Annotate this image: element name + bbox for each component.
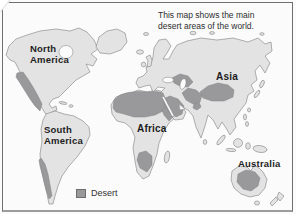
map-caption: This map shows the main desert areas of … (158, 10, 278, 31)
label-south-america-line2: America (44, 135, 83, 146)
island-sumatra (216, 134, 227, 146)
label-australia: Australia (238, 158, 280, 169)
island-svalbard (144, 33, 149, 36)
label-south-america: South America (44, 124, 83, 146)
label-south-america-line1: South (44, 124, 83, 135)
island-philippines-south (246, 122, 249, 127)
island-hispaniola (69, 105, 73, 108)
island-iceland (137, 50, 144, 54)
island-java (226, 148, 236, 152)
island-arctic-2 (210, 32, 215, 35)
legend-desert-label: Desert (91, 188, 118, 198)
world-desert-map-figure: This map shows the main desert areas of … (0, 0, 296, 214)
island-japan-north (259, 80, 266, 89)
island-madagascar (163, 151, 170, 164)
black-sea (163, 77, 174, 83)
island-new-guinea (253, 145, 268, 154)
legend: Desert (76, 188, 118, 198)
label-north-america-line1: North (30, 43, 69, 54)
island-sri-lanka (203, 140, 207, 145)
map-caption-line1: This map shows the main (158, 10, 278, 21)
label-north-america-line2: America (30, 54, 69, 65)
island-taiwan (248, 108, 251, 112)
continent-north-america (6, 28, 98, 115)
island-philippines-north (244, 114, 247, 120)
island-cuba (59, 101, 67, 105)
label-africa: Africa (137, 123, 167, 134)
island-wrangel (260, 33, 264, 36)
page-corner-artifact-inner (0, 0, 9, 11)
desert-swatch-icon (76, 189, 86, 198)
island-ireland (141, 62, 145, 67)
label-north-america: North America (30, 43, 69, 65)
desert-sahara (113, 92, 167, 118)
island-arctic-1 (190, 31, 196, 34)
island-tasmania (255, 201, 260, 205)
island-greenland (96, 29, 127, 54)
island-borneo (234, 139, 243, 148)
island-great-britain (146, 55, 152, 67)
island-sulawesi (246, 143, 251, 150)
map-caption-line2: desert areas of the world. (158, 21, 278, 32)
island-new-zealand-south (270, 197, 278, 206)
label-asia: Asia (216, 71, 238, 82)
world-map (0, 0, 296, 214)
